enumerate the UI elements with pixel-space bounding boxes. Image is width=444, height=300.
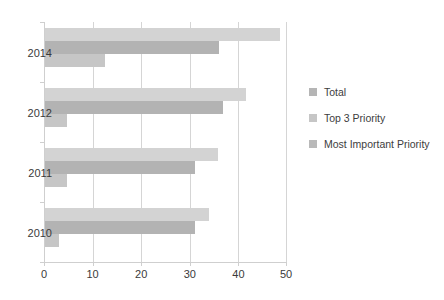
x-axis-label-0: 0 — [41, 268, 47, 280]
y-axis-label-2014: 2014 — [12, 47, 52, 59]
bar-2010-top3 — [44, 221, 195, 234]
bar-group-2010 — [44, 208, 287, 262]
bar-2012-top3 — [44, 101, 223, 114]
legend-swatch-icon-top-3-priority — [309, 114, 317, 122]
x-axis-label-40: 40 — [232, 268, 244, 280]
x-axis-label-30: 30 — [184, 268, 196, 280]
bar-2014-top3 — [44, 41, 219, 54]
bar-2014-total — [44, 28, 280, 41]
legend-label-total: Total — [324, 86, 346, 98]
x-tick-mark-30 — [190, 262, 191, 266]
bar-2011-total — [44, 148, 218, 161]
y-axis-label-2012: 2012 — [12, 107, 52, 119]
x-tick-mark-20 — [141, 262, 142, 266]
bar-2010-total — [44, 208, 209, 221]
plot-area — [44, 22, 287, 262]
legend-item-top-3-priority[interactable]: Top 3 Priority — [309, 112, 430, 124]
bar-2011-top3 — [44, 161, 195, 174]
x-axis-label-20: 20 — [135, 268, 147, 280]
bar-group-2012 — [44, 88, 287, 142]
y-axis-label-2010: 2010 — [12, 227, 52, 239]
bar-chart: 2014 2012 2011 2010 0 10 20 30 40 50 Tot… — [0, 0, 444, 300]
x-axis-label-10: 10 — [86, 268, 98, 280]
bar-2014-most — [44, 54, 105, 67]
legend-label-top-3-priority: Top 3 Priority — [324, 112, 385, 124]
bar-2012-total — [44, 88, 246, 101]
legend-swatch-icon-most-important-priority — [309, 140, 317, 148]
x-tick-mark-0 — [44, 262, 45, 266]
bar-group-2011 — [44, 148, 287, 202]
legend-item-most-important-priority[interactable]: Most Important Priority — [309, 138, 430, 150]
x-tick-mark-50 — [286, 262, 287, 266]
chart-legend: Total Top 3 Priority Most Important Prio… — [309, 86, 430, 164]
bar-group-2014 — [44, 28, 287, 82]
x-tick-mark-40 — [238, 262, 239, 266]
legend-swatch-icon-total — [309, 88, 317, 96]
legend-label-most-important-priority: Most Important Priority — [324, 138, 430, 150]
x-axis-label-50: 50 — [280, 268, 292, 280]
x-axis-line — [44, 262, 287, 263]
legend-item-total[interactable]: Total — [309, 86, 430, 98]
x-tick-mark-10 — [93, 262, 94, 266]
y-axis-label-2011: 2011 — [12, 167, 52, 179]
